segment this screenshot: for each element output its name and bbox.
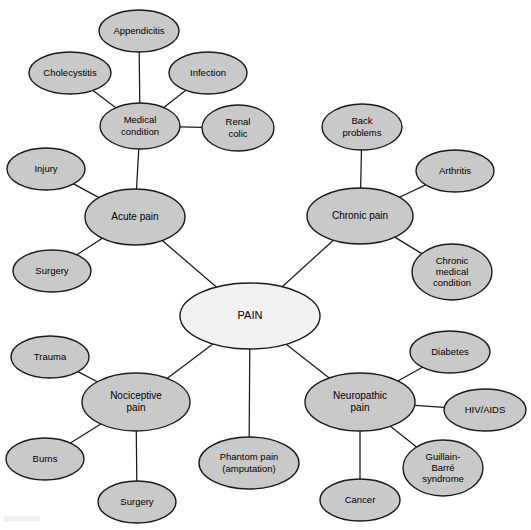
node-label-line: Nociceptive <box>110 390 162 401</box>
edge-nociceptive-pain-to-surgery-nociceptive <box>136 431 137 481</box>
node-phantom-pain[interactable]: Phantom pain(amputation) <box>199 437 299 489</box>
node-label-line: Burns <box>33 453 58 464</box>
node-label-line: Back <box>351 115 372 126</box>
node-label-line: Surgery <box>35 265 69 276</box>
node-label-line: Diabetes <box>431 346 469 357</box>
edge-neuropathic-pain-to-guillain-barre <box>390 426 416 447</box>
node-label-line: medical <box>436 266 469 277</box>
node-arthritis[interactable]: Arthritis <box>416 150 494 192</box>
node-label-renal-colic: Renalcolic <box>226 116 251 138</box>
node-trauma[interactable]: Trauma <box>11 336 89 378</box>
node-layer: PAINAcute painChronic painNociceptivepai… <box>6 10 526 523</box>
node-appendicitis[interactable]: Appendicitis <box>99 10 179 52</box>
edge-chronic-pain-to-chronic-medical-condition <box>395 237 422 253</box>
node-label-line: pain <box>127 402 146 413</box>
node-infection[interactable]: Infection <box>169 52 247 94</box>
node-label-line: problems <box>342 126 381 137</box>
node-label-line: Surgery <box>120 496 154 507</box>
node-label-infection: Infection <box>190 67 226 78</box>
node-chronic-medical-condition[interactable]: Chronicmedicalcondition <box>412 244 492 300</box>
edge-acute-pain-to-surgery-acute <box>77 238 103 255</box>
edge-medical-condition-to-cholecystitis <box>93 90 116 107</box>
node-label-cancer: Cancer <box>345 494 376 505</box>
node-cholecystitis[interactable]: Cholecystitis <box>29 52 111 94</box>
node-label-cholecystitis: Cholecystitis <box>43 67 97 78</box>
edge-medical-condition-to-infection <box>164 90 186 107</box>
node-back-problems[interactable]: Backproblems <box>322 104 402 150</box>
node-label-line: Guillain- <box>426 450 461 461</box>
pain-concept-map-diagram: PAINAcute painChronic painNociceptivepai… <box>0 0 531 530</box>
node-label-line: Injury <box>34 163 57 174</box>
node-label-chronic-pain: Chronic pain <box>332 210 388 221</box>
node-label-line: Neuropathic <box>333 390 387 401</box>
edge-chronic-pain-to-arthritis <box>399 185 425 197</box>
node-surgery-nociceptive[interactable]: Surgery <box>98 481 176 523</box>
node-label-line: syndrome <box>422 473 464 484</box>
node-label-trauma: Trauma <box>34 351 67 362</box>
node-label-chronic-medical-condition: Chronicmedicalcondition <box>433 254 471 287</box>
node-label-surgery-acute: Surgery <box>35 265 69 276</box>
node-label-phantom-pain: Phantom pain(amputation) <box>220 451 279 473</box>
node-label-injury: Injury <box>34 163 57 174</box>
node-neuropathic-pain[interactable]: Neuropathicpain <box>305 373 415 431</box>
node-label-arthritis: Arthritis <box>439 165 471 176</box>
diagram-canvas: PAINAcute painChronic painNociceptivepai… <box>0 0 531 530</box>
node-label-line: Cholecystitis <box>43 67 97 78</box>
node-label-line: PAIN <box>238 309 263 321</box>
node-cancer[interactable]: Cancer <box>320 479 400 521</box>
edge-neuropathic-pain-to-diabetes <box>398 367 423 381</box>
node-label-line: Arthritis <box>439 165 471 176</box>
node-guillain-barre[interactable]: Guillain-Barrésyndrome <box>403 440 483 496</box>
node-label-medical-condition: Medicalcondition <box>121 114 159 136</box>
node-chronic-pain[interactable]: Chronic pain <box>307 188 413 244</box>
node-label-line: Cancer <box>345 494 376 505</box>
node-label-line: Infection <box>190 67 226 78</box>
node-nociceptive-pain[interactable]: Nociceptivepain <box>82 373 190 431</box>
node-surgery-acute[interactable]: Surgery <box>13 250 91 292</box>
node-label-line: Barré <box>431 462 454 473</box>
node-label-line: Chronic <box>436 254 469 265</box>
node-renal-colic[interactable]: Renalcolic <box>202 105 274 151</box>
node-injury[interactable]: Injury <box>7 148 85 190</box>
node-pain[interactable]: PAIN <box>180 283 320 349</box>
node-label-line: colic <box>228 127 247 138</box>
node-label-acute-pain: Acute pain <box>111 211 158 222</box>
node-medical-condition[interactable]: Medicalcondition <box>100 103 180 149</box>
edge-pain-to-phantom-pain <box>249 349 250 437</box>
node-label-line: (amputation) <box>222 462 275 473</box>
edge-pain-to-acute-pain <box>162 240 216 287</box>
node-label-hiv-aids: HIV/AIDS <box>465 404 506 415</box>
edge-pain-to-chronic-pain <box>282 240 333 286</box>
node-label-line: Acute pain <box>111 211 158 222</box>
node-label-diabetes: Diabetes <box>431 346 469 357</box>
node-label-line: Medical <box>124 114 157 125</box>
edge-acute-pain-to-injury <box>74 184 99 198</box>
node-label-line: Phantom pain <box>220 451 279 462</box>
node-label-line: Appendicitis <box>113 25 164 36</box>
node-label-appendicitis: Appendicitis <box>113 25 164 36</box>
node-label-line: condition <box>121 125 159 136</box>
node-burns[interactable]: Burns <box>6 438 84 480</box>
node-label-line: Chronic pain <box>332 210 388 221</box>
node-label-line: Trauma <box>34 351 67 362</box>
edge-chronic-pain-to-back-problems <box>361 150 362 188</box>
edge-neuropathic-pain-to-hiv-aids <box>415 405 445 407</box>
node-hiv-aids[interactable]: HIV/AIDS <box>444 389 526 431</box>
node-diabetes[interactable]: Diabetes <box>410 331 490 373</box>
edge-pain-to-nociceptive-pain <box>167 344 213 378</box>
node-label-line: pain <box>351 402 370 413</box>
node-label-pain: PAIN <box>238 309 263 321</box>
node-label-surgery-nociceptive: Surgery <box>120 496 154 507</box>
node-label-line: condition <box>433 277 471 288</box>
edge-pain-to-neuropathic-pain <box>286 344 329 378</box>
node-label-line: Renal <box>226 116 251 127</box>
edge-nociceptive-pain-to-trauma <box>78 372 97 382</box>
node-label-burns: Burns <box>33 453 58 464</box>
node-label-line: HIV/AIDS <box>465 404 506 415</box>
scan-artifact <box>4 516 40 521</box>
edge-acute-pain-to-medical-condition <box>137 149 139 189</box>
node-acute-pain[interactable]: Acute pain <box>85 189 185 245</box>
edge-medical-condition-to-appendicitis <box>139 52 140 103</box>
edge-nociceptive-pain-to-burns <box>70 424 100 443</box>
